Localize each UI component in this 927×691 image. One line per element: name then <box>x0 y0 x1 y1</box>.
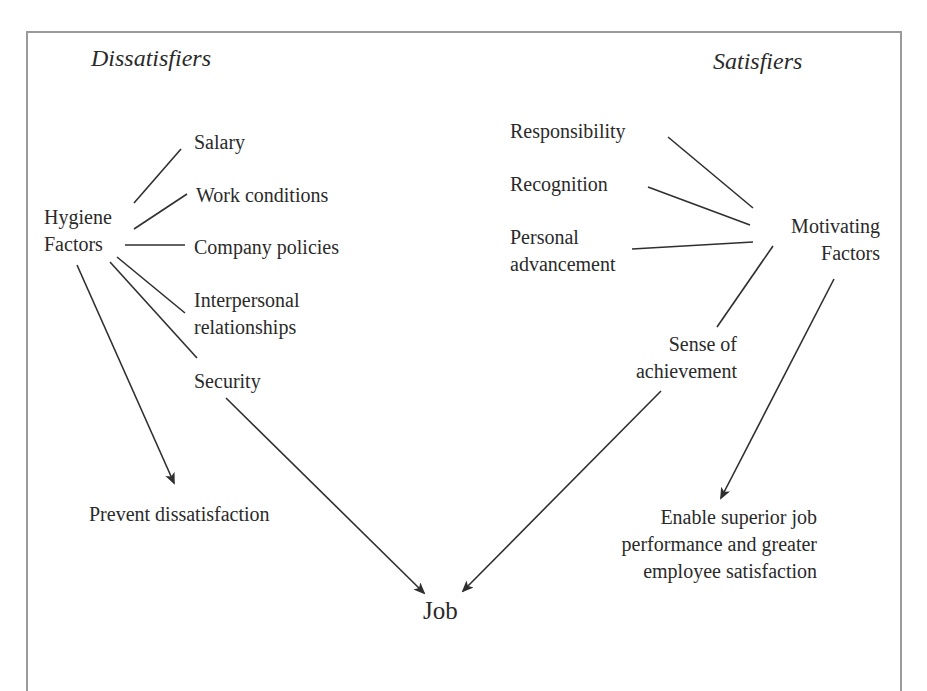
hygiene-label-line2: Factors <box>44 231 112 258</box>
edge-hygiene-security <box>110 262 197 358</box>
motivator-item-recognition: Recognition <box>510 171 608 198</box>
personal-line2: advancement <box>510 251 616 278</box>
enable-superior-performance-outcome: Enable superior job performance and grea… <box>557 504 817 585</box>
motivator-item-sense-of-achievement: Sense of achievement <box>597 331 737 385</box>
motivator-item-personal-advancement: Personal advancement <box>510 224 616 278</box>
motivating-factors-node: Motivating Factors <box>760 213 880 267</box>
motivator-item-responsibility: Responsibility <box>510 118 626 145</box>
interpersonal-line2: relationships <box>194 314 300 341</box>
hygiene-item-security: Security <box>194 368 261 395</box>
hygiene-item-work-conditions: Work conditions <box>196 182 328 209</box>
personal-line1: Personal <box>510 224 616 251</box>
interpersonal-line1: Interpersonal <box>194 287 300 314</box>
edge-hygiene-work-conditions <box>134 194 187 229</box>
hygiene-item-interpersonal: Interpersonal relationships <box>194 287 300 341</box>
edge-hygiene-prevent <box>77 265 174 483</box>
edge-hygiene-interpersonal <box>117 257 185 313</box>
edge-hygiene-salary <box>134 149 181 203</box>
edge-security-job <box>226 398 424 593</box>
dissatisfiers-header: Dissatisfiers <box>91 43 211 73</box>
job-node: Job <box>423 596 458 626</box>
achievement-line2: achievement <box>597 358 737 385</box>
hygiene-item-company-policies: Company policies <box>194 234 339 261</box>
achievement-line1: Sense of <box>597 331 737 358</box>
hygiene-factors-node: Hygiene Factors <box>44 204 112 258</box>
edge-responsibility-motivating <box>668 137 753 208</box>
motivating-label-line1: Motivating <box>760 213 880 240</box>
enable-line3: employee satisfaction <box>557 558 817 585</box>
motivating-label-line2: Factors <box>760 240 880 267</box>
prevent-dissatisfaction-outcome: Prevent dissatisfaction <box>89 501 270 528</box>
edge-personal-motivating <box>632 242 753 249</box>
hygiene-item-salary: Salary <box>194 129 245 156</box>
satisfiers-header: Satisfiers <box>713 46 802 76</box>
edge-motivating-enable <box>721 279 834 498</box>
hygiene-label-line1: Hygiene <box>44 204 112 231</box>
enable-line1: Enable superior job <box>557 504 817 531</box>
enable-line2: performance and greater <box>557 531 817 558</box>
